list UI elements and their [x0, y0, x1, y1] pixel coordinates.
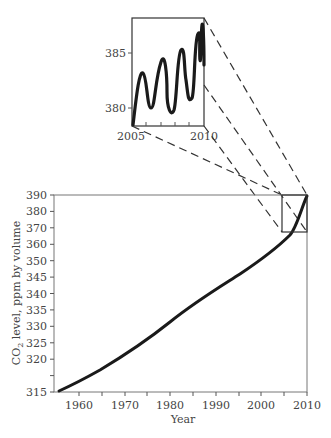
inset-ytick-385: 385 — [105, 47, 126, 60]
zoom-connector-lines — [132, 18, 307, 232]
ytick-label: 370 — [26, 222, 47, 235]
ytick-label: 320 — [26, 353, 47, 366]
x-axis-tick-labels: 1960 1970 1980 1990 2000 2010 — [65, 399, 321, 412]
inset-chart: 385 380 2005 2010 — [105, 18, 218, 143]
y-axis-label: CO2 level, ppm by volume — [10, 221, 25, 365]
ytick-label: 340 — [26, 288, 47, 301]
ytick-label: 390 — [26, 189, 47, 202]
main-plot-frame — [54, 195, 307, 392]
x-axis-ticks — [79, 392, 307, 396]
ytick-label: 360 — [26, 238, 47, 251]
xtick-label: 2010 — [293, 399, 321, 412]
ytick-label: 345 — [26, 271, 47, 284]
co2-trend-line — [59, 196, 307, 391]
main-chart: 390 380 370 360 350 345 340 335 330 325 … — [10, 189, 321, 426]
co2-chart: 385 380 2005 2010 — [0, 0, 331, 438]
y-axis-label-pre: CO — [10, 348, 23, 365]
ytick-label: 325 — [26, 337, 47, 350]
inset-seasonal-line — [133, 24, 204, 125]
y-axis-label-post: level, ppm by volume — [10, 221, 23, 343]
ytick-label: 350 — [26, 255, 47, 268]
x-axis-label: Year — [170, 413, 196, 426]
inset-xtick-2005: 2005 — [117, 130, 145, 143]
y-axis-tick-labels: 390 380 370 360 350 345 340 335 330 325 … — [26, 189, 47, 399]
ytick-label: 380 — [26, 205, 47, 218]
xtick-label: 1960 — [65, 399, 93, 412]
inset-xtick-2010: 2010 — [190, 130, 218, 143]
y-axis-ticks — [50, 195, 54, 392]
ytick-label: 335 — [26, 304, 47, 317]
ytick-label: 330 — [26, 320, 47, 333]
xtick-label: 1990 — [202, 399, 230, 412]
ytick-label: 315 — [26, 386, 47, 399]
inset-ytick-380: 380 — [105, 102, 126, 115]
inset-y-ticks — [128, 53, 132, 108]
xtick-label: 1980 — [156, 399, 184, 412]
xtick-label: 1970 — [111, 399, 139, 412]
xtick-label: 2000 — [247, 399, 275, 412]
